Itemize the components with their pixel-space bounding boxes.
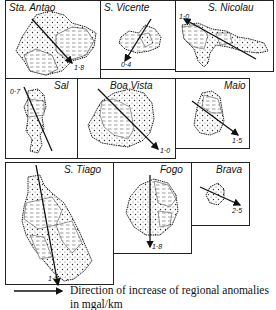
panel-fogo: Fogo 1·8 (113, 162, 192, 254)
island-map-sta-antao (6, 1, 102, 81)
island-map-s-tiago (6, 163, 115, 286)
panel-sal: Sal 0·7 (5, 78, 78, 159)
legend-arrow-icon (12, 285, 68, 297)
island-map-brava (192, 163, 251, 227)
panel-sta-antao: Sta. Antao 1·8 (5, 0, 101, 80)
panel-s-nicolau: S. Nicolau 1·0 (175, 0, 274, 72)
panel-maio: Maio 1·5 (175, 78, 250, 149)
anomaly-value: 1·8 (152, 243, 162, 250)
panel-s-tiago: S. Tiago 1·0 (5, 162, 114, 285)
legend: Direction of increase of regional anomal… (12, 284, 276, 309)
anomaly-value: 0·4 (121, 61, 131, 68)
island-map-s-vicente (101, 1, 177, 71)
island-map-s-nicolau (176, 1, 275, 73)
anomaly-value: 1·8 (74, 64, 84, 71)
anomaly-value: 2·5 (232, 207, 242, 214)
panel-boa-vista: Boa Vista 1·0 (77, 78, 176, 159)
anomaly-value: 1·0 (179, 13, 189, 20)
anomaly-value: 0·7 (10, 88, 20, 95)
panel-brava: Brava 2·5 (191, 162, 250, 226)
anomaly-value: 1·0 (160, 147, 170, 154)
legend-text-line2: in mgal/km (70, 298, 123, 310)
island-map-fogo (114, 163, 193, 255)
anomaly-value: 1·0 (48, 275, 58, 282)
panel-s-vicente: S. Vicente 0·4 (100, 0, 176, 70)
anomaly-value: 1·5 (232, 137, 242, 144)
legend-text: Direction of increase of regional anomal… (70, 284, 269, 296)
